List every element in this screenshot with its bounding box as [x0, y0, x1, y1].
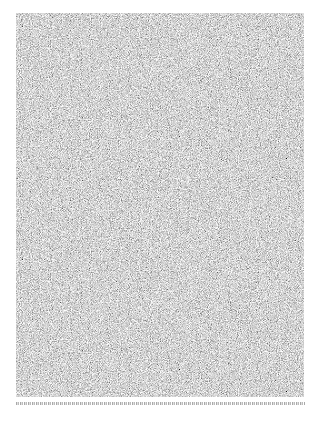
noise-texture	[16, 13, 304, 397]
noise-image-figure	[16, 13, 304, 397]
caption-illegible-text	[16, 402, 305, 405]
figure-caption	[16, 401, 305, 406]
document-page	[0, 0, 319, 428]
